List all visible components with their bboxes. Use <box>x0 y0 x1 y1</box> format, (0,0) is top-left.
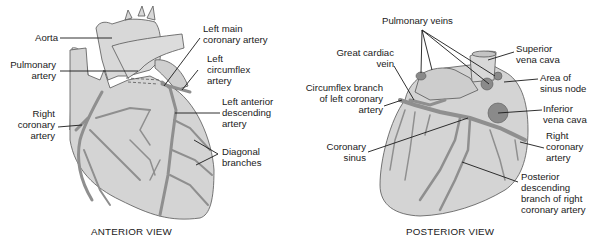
label-text: circumflex <box>207 64 250 75</box>
label-text: artery <box>0 70 56 81</box>
label-text: coronary artery <box>203 34 268 45</box>
label-text: Left main <box>203 23 268 34</box>
label-left-anterior-descending-artery: Left anterior descending artery <box>222 96 273 129</box>
label-text: Area of <box>540 72 586 83</box>
label-diagonal-branches: Diagonal branches <box>222 146 261 168</box>
label-area-of-sinus-node: Area of sinus node <box>540 72 586 94</box>
label-text: Left anterior <box>222 96 273 107</box>
label-text: coronary <box>546 141 583 152</box>
label-text: Great cardiac <box>316 47 394 58</box>
label-text: descending <box>222 107 273 118</box>
label-text: Circumflex branch <box>296 82 383 93</box>
label-left-main-coronary-artery: Left main coronary artery <box>203 23 268 45</box>
anterior-view-caption: ANTERIOR VIEW <box>91 226 172 237</box>
label-text: Right <box>546 130 583 141</box>
label-pulmonary-artery: Pulmonary artery <box>0 59 56 81</box>
label-text: descending <box>521 182 586 193</box>
label-text: artery <box>546 152 583 163</box>
posterior-heart <box>380 51 528 216</box>
label-inferior-vena-cava: Inferior vena cava <box>543 103 587 125</box>
label-pulmonary-veins: Pulmonary veins <box>382 15 453 26</box>
label-text: artery <box>296 104 383 115</box>
label-posterior-descending-branch: Posterior descending branch of right cor… <box>521 171 586 215</box>
label-text: Coronary <box>310 141 366 152</box>
label-left-circumflex-artery: Left circumflex artery <box>207 53 250 86</box>
label-text: Inferior <box>543 103 587 114</box>
heart-diagram-art <box>0 0 596 242</box>
label-great-cardiac-vein: Great cardiac vein <box>316 47 394 69</box>
label-text: Left <box>207 53 250 64</box>
label-text: vena cava <box>516 54 560 65</box>
label-text: branches <box>222 157 261 168</box>
label-text: artery <box>222 118 273 129</box>
posterior-view-caption: POSTERIOR VIEW <box>406 226 494 237</box>
label-text: Right <box>0 108 55 119</box>
label-text: artery <box>207 75 250 86</box>
label-text: Diagonal <box>222 146 261 157</box>
label-circumflex-branch-left-coronary: Circumflex branch of left coronary arter… <box>296 82 383 115</box>
label-text: Posterior <box>521 171 586 182</box>
label-text: Pulmonary <box>0 59 56 70</box>
label-text: sinus node <box>540 83 586 94</box>
label-right-coronary-artery-posterior: Right coronary artery <box>546 130 583 163</box>
label-text: Aorta <box>35 32 58 43</box>
label-text: of left coronary <box>296 93 383 104</box>
label-text: Pulmonary veins <box>382 15 453 26</box>
label-text: vein <box>316 58 394 69</box>
label-text: artery <box>0 130 55 141</box>
label-text: sinus <box>310 152 366 163</box>
label-text: coronary artery <box>521 204 586 215</box>
label-superior-vena-cava: Superior vena cava <box>516 43 560 65</box>
label-text: vena cava <box>543 114 587 125</box>
label-aorta: Aorta <box>10 32 58 43</box>
label-right-coronary-artery: Right coronary artery <box>0 108 55 141</box>
label-text: branch of right <box>521 193 586 204</box>
label-coronary-sinus: Coronary sinus <box>310 141 366 163</box>
label-text: coronary <box>0 119 55 130</box>
label-text: Superior <box>516 43 560 54</box>
